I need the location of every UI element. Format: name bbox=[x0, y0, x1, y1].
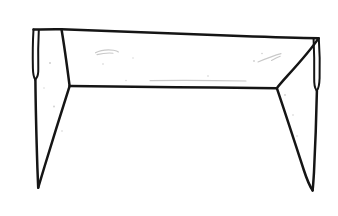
paper-speck bbox=[49, 62, 51, 64]
paper-speck bbox=[125, 80, 126, 81]
paper-speck bbox=[102, 63, 104, 65]
paper-speck bbox=[132, 57, 133, 58]
paper-speck bbox=[207, 75, 209, 77]
paper-speck bbox=[284, 94, 286, 96]
paper-speck bbox=[53, 106, 55, 108]
sketch-canvas bbox=[0, 0, 338, 216]
paper-speck bbox=[292, 114, 294, 116]
faint-line-under-band-icon bbox=[150, 80, 246, 81]
paper-speck bbox=[261, 53, 263, 55]
sketch-svg bbox=[0, 0, 338, 216]
paper-speck bbox=[296, 135, 298, 137]
paper-speck bbox=[253, 60, 255, 62]
paper-speck bbox=[43, 87, 44, 88]
paper-speck bbox=[61, 130, 63, 132]
